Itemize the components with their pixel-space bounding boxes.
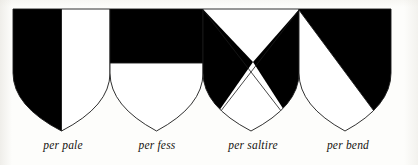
caption-row: per pale per fess per saltire per bend — [0, 0, 418, 165]
caption-per-bend: per bend — [285, 139, 411, 152]
heraldry-plate-page: per pale per fess per saltire per bend — [0, 0, 418, 165]
